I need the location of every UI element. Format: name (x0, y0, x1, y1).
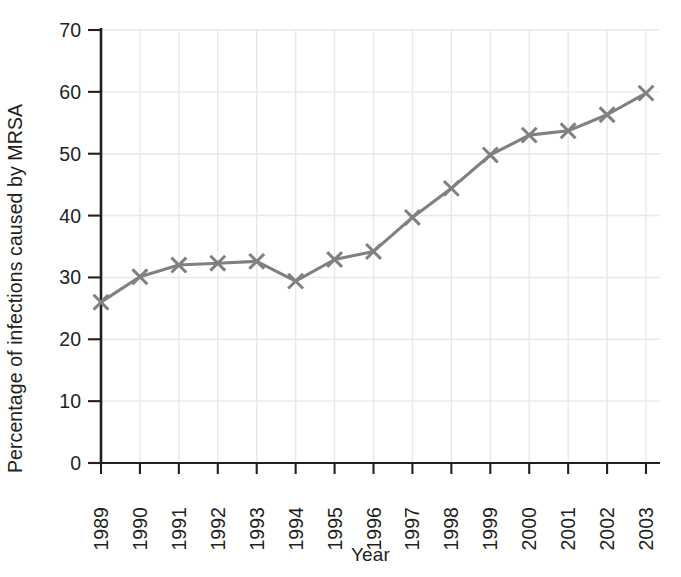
x-axis-tick-label: 1989 (90, 481, 113, 551)
line-chart: Percentage of infections caused by MRSA … (0, 0, 681, 577)
x-axis-tick-label: 1994 (284, 481, 307, 551)
x-axis-tick-label: 1999 (479, 481, 502, 551)
x-axis-tick-label: 2001 (557, 481, 580, 551)
x-axis-tick-label: 1998 (440, 481, 463, 551)
x-axis-tick-marks (101, 463, 646, 474)
x-axis-tick-label: 2002 (596, 481, 619, 551)
x-axis-tick-label: 1991 (167, 481, 190, 551)
horizontal-grid-lines (101, 30, 660, 401)
y-axis-tick-label: 20 (35, 328, 81, 351)
x-axis-tick-label: 1997 (401, 481, 424, 551)
y-axis-tick-label: 70 (35, 19, 81, 42)
y-axis-tick-label: 40 (35, 204, 81, 227)
vertical-grid-lines (101, 30, 646, 463)
y-axis-tick-label: 10 (35, 390, 81, 413)
x-axis-tick-label: 1995 (323, 481, 346, 551)
x-axis-tick-label: 2000 (518, 481, 541, 551)
x-axis-tick-label: 1996 (362, 481, 385, 551)
x-axis-tick-label: 1992 (206, 481, 229, 551)
y-axis-tick-marks (88, 30, 101, 463)
x-axis-tick-label: 2003 (635, 481, 658, 551)
y-axis-tick-label: 0 (35, 452, 81, 475)
x-axis-tick-label: 1993 (245, 481, 268, 551)
x-axis-tick-label: 1990 (128, 481, 151, 551)
y-axis-tick-label: 30 (35, 266, 81, 289)
y-axis-tick-label: 50 (35, 142, 81, 165)
y-axis-tick-label: 60 (35, 80, 81, 103)
